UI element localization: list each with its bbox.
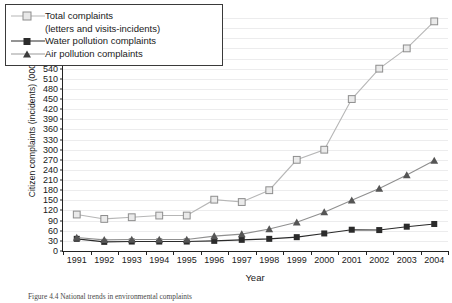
legend-label-total-sub: (letters and visits-incidents) (45, 23, 216, 35)
data-point (156, 212, 163, 219)
legend-label-total: Total complaints (45, 10, 113, 22)
x-axis-tick-label: 2001 (342, 256, 362, 265)
y-axis-tick-mark (60, 240, 64, 241)
x-axis-tick-label: 1996 (204, 256, 224, 265)
x-axis-tick-mark (91, 251, 92, 255)
x-axis-tick-mark (366, 251, 367, 255)
x-axis-tick-mark (421, 251, 422, 255)
x-axis-tick-mark (118, 251, 119, 255)
figure-caption: Figure 4.4 National trends in environmen… (28, 292, 192, 301)
y-axis-tick-mark (60, 78, 64, 79)
data-point (128, 214, 135, 221)
legend-label-water: Water pollution complaints (45, 35, 156, 47)
chart-legend: Total complaints (letters and visits-inc… (5, 4, 223, 66)
data-point (348, 197, 356, 204)
x-axis-tick-label: 1998 (259, 256, 279, 265)
data-point (348, 96, 355, 103)
x-axis-tick-label: 1993 (122, 256, 142, 265)
x-axis-tick-mark (393, 251, 394, 255)
open-square-marker-icon (11, 10, 45, 22)
legend-label-air: Air pollution complaints (45, 48, 143, 60)
x-axis-tick-label: 1995 (177, 256, 197, 265)
x-axis-tick-label: 1994 (149, 256, 169, 265)
x-axis-tick-mark (448, 251, 449, 255)
data-point (266, 236, 272, 242)
y-axis-tick-mark (60, 99, 64, 100)
data-point (293, 156, 300, 163)
data-point (321, 230, 327, 236)
x-axis-tick-mark (173, 251, 174, 255)
x-axis-tick-mark (63, 251, 64, 255)
x-axis-title: Year (62, 272, 448, 283)
x-axis-tick-label: 1991 (67, 256, 87, 265)
x-axis-tick-label: 2003 (397, 256, 417, 265)
data-point (431, 18, 438, 25)
x-axis-tick-label: 2002 (369, 256, 389, 265)
data-point (238, 199, 245, 206)
data-point (293, 218, 301, 225)
data-point (403, 45, 410, 52)
x-axis-tick-mark (338, 251, 339, 255)
y-axis-tick-mark (60, 169, 64, 170)
x-axis-tick-mark (311, 251, 312, 255)
data-point (375, 185, 383, 192)
x-axis-tick-label: 2004 (424, 256, 444, 265)
data-point (321, 146, 328, 153)
data-point (266, 187, 273, 194)
y-axis-tick-mark (60, 119, 64, 120)
x-axis-tick-mark (228, 251, 229, 255)
x-axis-tick-mark (256, 251, 257, 255)
x-axis-tick-mark (201, 251, 202, 255)
filled-square-marker-icon (11, 35, 45, 47)
y-axis-tick-mark (60, 88, 64, 89)
x-axis-tick-mark (146, 251, 147, 255)
x-axis-tick-label: 1997 (232, 256, 252, 265)
data-point (376, 65, 383, 72)
data-point (431, 221, 437, 227)
data-point (294, 234, 300, 240)
data-point (73, 211, 80, 218)
y-axis-tick-mark (60, 68, 64, 69)
y-axis-tick-mark (60, 139, 64, 140)
data-point (183, 212, 190, 219)
figure-container: Citizen complaints (incidents) (000s) 03… (0, 0, 452, 303)
y-axis-tick-mark (60, 159, 64, 160)
data-point (349, 227, 355, 233)
y-axis-tick-mark (60, 190, 64, 191)
y-axis-tick-mark (60, 230, 64, 231)
y-axis-tick-mark (60, 180, 64, 181)
legend-item-total: Total complaints (11, 10, 216, 22)
data-point (101, 216, 108, 223)
y-axis-tick-mark (60, 200, 64, 201)
y-axis-tick-mark (60, 149, 64, 150)
x-axis-tick-label: 1992 (94, 256, 114, 265)
x-axis-tick-label: 2000 (314, 256, 334, 265)
y-axis-tick-mark (60, 220, 64, 221)
data-point (376, 227, 382, 233)
data-point (239, 237, 245, 243)
legend-item-air: Air pollution complaints (11, 48, 216, 60)
x-axis-tick-label: 1999 (287, 256, 307, 265)
data-point (320, 208, 328, 215)
y-axis-tick-mark (60, 210, 64, 211)
y-axis-tick-mark (60, 109, 64, 110)
filled-triangle-marker-icon (11, 48, 45, 60)
y-axis-tick-mark (60, 129, 64, 130)
legend-item-water: Water pollution complaints (11, 35, 216, 47)
data-point (430, 157, 438, 164)
data-point (404, 224, 410, 230)
x-axis-tick-mark (283, 251, 284, 255)
data-point (403, 171, 411, 178)
series-water (74, 221, 438, 245)
data-point (211, 196, 218, 203)
